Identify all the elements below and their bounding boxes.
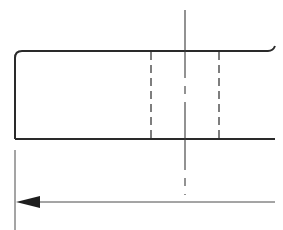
arrowhead-icon bbox=[16, 196, 40, 208]
technical-drawing bbox=[0, 0, 283, 230]
part-outline bbox=[15, 46, 275, 139]
